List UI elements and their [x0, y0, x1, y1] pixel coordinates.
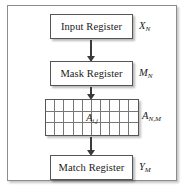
memory-cell: [55, 123, 64, 135]
symbol-subscript: N: [145, 25, 150, 33]
memory-cell: [92, 123, 101, 135]
symbol-subscript: N,M: [148, 115, 160, 123]
memory-cell: [101, 123, 110, 135]
memory-cell: [64, 123, 73, 135]
memory-cell: [64, 112, 73, 124]
arrow-array-to-match: [90, 137, 92, 151]
memory-cell: [129, 100, 138, 112]
memory-cell: [83, 112, 92, 124]
memory-cell: [74, 123, 83, 135]
symbol-subscript: N: [148, 72, 153, 80]
block-mask-register-label: Mask Register: [60, 68, 122, 79]
symbol-base: M: [139, 67, 148, 78]
memory-cell: [83, 100, 92, 112]
memory-cell: [74, 112, 83, 124]
memory-cell: [46, 100, 55, 112]
symbol-label-memory-array: AN,M: [142, 110, 161, 123]
symbol-label-mask-register: MN: [139, 67, 153, 80]
memory-cell: [129, 123, 138, 135]
memory-cell: [101, 112, 110, 124]
arrow-input-to-mask: [90, 40, 92, 57]
symbol-label-input-register: XN: [139, 20, 150, 33]
memory-cell: [120, 100, 129, 112]
memory-cell: [110, 112, 119, 124]
memory-cell: [92, 112, 101, 124]
symbol-label-match-register: YM: [139, 161, 151, 174]
memory-cell: [92, 100, 101, 112]
memory-array-grid: [46, 100, 138, 135]
memory-cell: [110, 100, 119, 112]
symbol-subscript: M: [145, 166, 151, 174]
block-mask-register: Mask Register: [50, 61, 133, 86]
block-input-register: Input Register: [50, 14, 133, 39]
figure-canvas: Input Register XN Mask Register MN Ai,j …: [0, 0, 186, 191]
block-match-register: Match Register: [50, 155, 133, 180]
memory-cell: [129, 112, 138, 124]
arrow-mask-to-array: [90, 87, 92, 95]
block-memory-array: Ai,j: [45, 99, 139, 136]
memory-cell: [55, 112, 64, 124]
memory-cell: [120, 112, 129, 124]
memory-cell: [120, 123, 129, 135]
memory-cell: [64, 100, 73, 112]
memory-cell: [55, 100, 64, 112]
memory-cell: [46, 123, 55, 135]
memory-cell: [83, 123, 92, 135]
memory-cell: [46, 112, 55, 124]
block-match-register-label: Match Register: [59, 162, 125, 173]
memory-cell: [101, 100, 110, 112]
memory-cell: [110, 123, 119, 135]
block-input-register-label: Input Register: [61, 21, 122, 32]
memory-cell: [74, 100, 83, 112]
